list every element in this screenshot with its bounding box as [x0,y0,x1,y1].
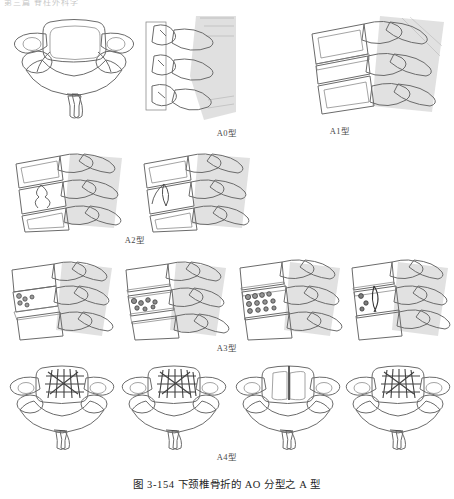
a3-lateral-view-4 [348,262,452,340]
a2-lateral-view-right [140,154,256,232]
row-label-a4: A4型 [0,450,454,462]
a4-axial-view-2 [120,364,228,448]
row-label-a1: A1型 [230,124,450,136]
a3-lateral-view-3 [236,262,346,340]
a3-lateral-view-2 [122,262,232,340]
a1-lateral-view [306,16,446,120]
a0-axial-view [10,14,138,122]
a4-axial-view-3 [234,364,342,448]
running-header: 第三篇 脊柱外科学 [4,0,79,7]
a2-lateral-view-left [12,154,128,232]
a3-lateral-view-1 [8,262,118,340]
figure-page: 第三篇 脊柱外科学 [0,0,454,499]
a0-oblique-view [144,16,236,120]
a4-axial-view-4 [344,364,452,448]
row-label-a2: A2型 [0,233,270,245]
row-label-a3: A3型 [0,341,454,353]
figure-caption: 图 3-154 下颈椎骨折的 AO 分型之 A 型 [0,476,454,491]
a4-axial-view-1 [8,364,116,448]
